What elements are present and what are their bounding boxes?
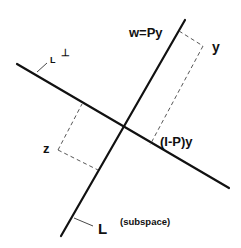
label-y: y: [212, 39, 220, 55]
subspace-line-L: [61, 20, 185, 236]
dashed-y-to-residual: [150, 46, 203, 145]
label-L-perp-base: L: [50, 55, 56, 65]
leader-tick-L-perp: [37, 63, 47, 72]
projection-diagram: w=Py y z (I-P)y L (subspace) L ⊥: [0, 0, 241, 248]
label-w-equals-Py: w=Py: [128, 25, 163, 40]
dashed-z-to-L-perp: [58, 104, 82, 150]
label-L-perp-sup: ⊥: [61, 47, 70, 58]
leader-tick-L: [74, 218, 93, 226]
label-subspace-note: (subspace): [120, 216, 170, 227]
label-residual: (I-P)y: [160, 134, 193, 149]
dashed-y-to-w: [179, 31, 203, 46]
label-subspace-L: L: [98, 220, 107, 237]
label-z: z: [43, 141, 50, 156]
dashed-z-to-L: [58, 150, 98, 170]
complement-line-L-perp: [17, 64, 229, 188]
